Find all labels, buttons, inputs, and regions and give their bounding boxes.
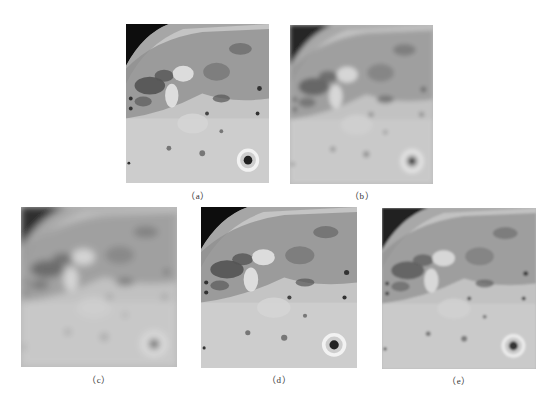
planet-surface-image-e [382,208,536,369]
panel-label-d: （d） [249,373,309,386]
planet-surface-image-d [201,207,357,368]
panel-label-e: （e） [429,374,489,387]
planet-surface-image-a [126,24,269,183]
panel-label-c: （c） [69,373,129,386]
image-panel-d [201,207,357,368]
image-panel-c [21,207,177,367]
image-panel-a [126,24,269,183]
image-panel-e [382,208,536,369]
planet-surface-image-c [21,207,177,367]
panel-label-a: （a） [168,189,228,202]
image-panel-b [290,25,433,184]
panel-label-b: （b） [332,189,392,202]
planet-surface-image-b [290,25,433,184]
